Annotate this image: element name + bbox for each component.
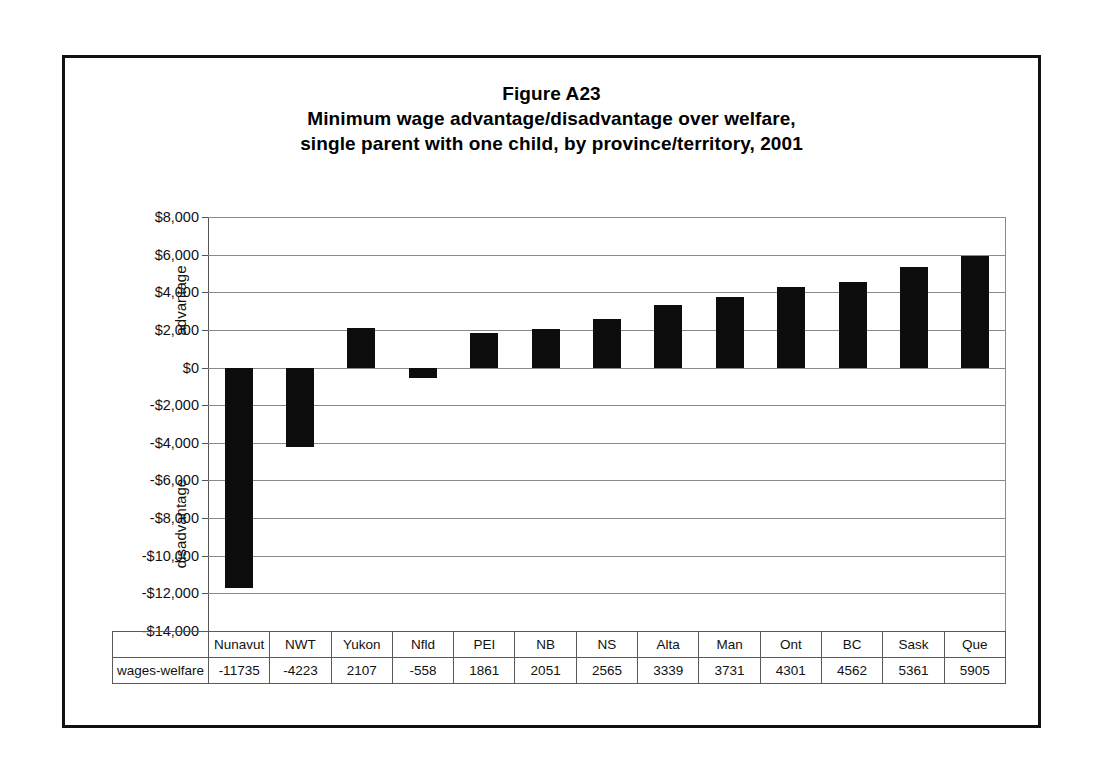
- table-value-cell: 1861: [454, 658, 515, 684]
- table-header-cell: Que: [944, 632, 1005, 658]
- table-value-cell: -4223: [270, 658, 331, 684]
- table-value-cell: 2051: [515, 658, 576, 684]
- table-header-row: NunavutNWTYukonNfldPEINBNSAltaManOntBCSa…: [113, 632, 1006, 658]
- table-header-cell: NS: [576, 632, 637, 658]
- data-table: NunavutNWTYukonNfldPEINBNSAltaManOntBCSa…: [112, 631, 1006, 684]
- bar-yukon[interactable]: [347, 328, 375, 368]
- bars-layer: [208, 217, 1006, 631]
- table-value-cell: 4301: [760, 658, 821, 684]
- bar-slot: [822, 217, 883, 631]
- bar-slot: [638, 217, 699, 631]
- bar-nunavut[interactable]: [225, 368, 253, 589]
- bar-slot: [945, 217, 1006, 631]
- y-axis-label: $0: [183, 360, 199, 376]
- y-axis-label: -$4,000: [150, 435, 199, 451]
- table-header-cell: Sask: [883, 632, 944, 658]
- table-value-cell: 4562: [821, 658, 882, 684]
- y-axis-label: -$10,000: [142, 548, 199, 564]
- table-header-cell: PEI: [454, 632, 515, 658]
- bar-nb[interactable]: [532, 329, 560, 368]
- bar-nwt[interactable]: [286, 368, 314, 447]
- bar-slot: [576, 217, 637, 631]
- table-header-cell: Nfld: [392, 632, 453, 658]
- table-value-cell: 2107: [331, 658, 392, 684]
- figure-frame: Figure A23 Minimum wage advantage/disadv…: [62, 55, 1041, 728]
- bar-slot: [392, 217, 453, 631]
- bar-slot: [454, 217, 515, 631]
- y-axis-label: $2,000: [155, 322, 199, 338]
- chart-plot-area: advantage disadvantage $8,000$6,000$4,00…: [208, 217, 1006, 631]
- table-value-cell: 3731: [699, 658, 760, 684]
- bar-bc[interactable]: [839, 282, 867, 368]
- table-value-cell: -11735: [209, 658, 270, 684]
- y-axis-label: $4,000: [155, 284, 199, 300]
- table-value-cell: -558: [392, 658, 453, 684]
- bar-que[interactable]: [961, 256, 989, 367]
- bar-slot: [331, 217, 392, 631]
- table-header-cell: Man: [699, 632, 760, 658]
- series-row-label: wages-welfare: [113, 658, 209, 684]
- y-axis-label: $8,000: [155, 209, 199, 225]
- table-value-cell: 5361: [883, 658, 944, 684]
- table-header-cell: Ont: [760, 632, 821, 658]
- table-header-cell: NWT: [270, 632, 331, 658]
- table-value-cell: 2565: [576, 658, 637, 684]
- bar-nfld[interactable]: [409, 368, 437, 379]
- table-value-row: wages-welfare -11735-42232107-5581861205…: [113, 658, 1006, 684]
- bar-slot: [760, 217, 821, 631]
- figure-title: Figure A23 Minimum wage advantage/disadv…: [65, 81, 1038, 156]
- bar-alta[interactable]: [654, 305, 682, 368]
- title-line-3: single parent with one child, by provinc…: [65, 131, 1038, 156]
- y-axis-label: -$12,000: [142, 585, 199, 601]
- bar-slot: [515, 217, 576, 631]
- y-axis-label: -$2,000: [150, 397, 199, 413]
- bar-slot: [269, 217, 330, 631]
- title-line-1: Figure A23: [65, 81, 1038, 106]
- table-header-cell: Nunavut: [209, 632, 270, 658]
- bar-pei[interactable]: [470, 333, 498, 368]
- y-axis-label: $6,000: [155, 247, 199, 263]
- bar-slot: [699, 217, 760, 631]
- table-value-cell: 5905: [944, 658, 1005, 684]
- y-axis-caption-advantage: advantage: [172, 221, 189, 381]
- bar-slot: [208, 217, 269, 631]
- table-header-cell: NB: [515, 632, 576, 658]
- y-axis-label: -$6,000: [150, 472, 199, 488]
- table-value-cell: 3339: [638, 658, 699, 684]
- bar-sask[interactable]: [900, 267, 928, 368]
- title-line-2: Minimum wage advantage/disadvantage over…: [65, 106, 1038, 131]
- y-axis-label: -$8,000: [150, 510, 199, 526]
- table-header-cell: BC: [821, 632, 882, 658]
- bar-ns[interactable]: [593, 319, 621, 367]
- table-header-cell: Yukon: [331, 632, 392, 658]
- header-corner-cell: [113, 632, 209, 658]
- table-header-cell: Alta: [638, 632, 699, 658]
- bar-ont[interactable]: [777, 287, 805, 368]
- bar-slot: [883, 217, 944, 631]
- bar-man[interactable]: [716, 297, 744, 367]
